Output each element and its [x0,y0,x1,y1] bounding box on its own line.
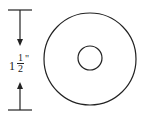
dimension-whole: 1 [9,59,15,74]
outer-circle [44,13,136,105]
dimension-label: 1 1 2 " [8,53,32,79]
inner-circle [78,46,102,70]
down-arrowhead-icon [17,39,23,46]
dimension-fraction: 1 2 [17,53,24,74]
inch-mark: " [25,53,29,64]
up-arrowhead-icon [17,82,23,89]
fraction-denominator: 2 [17,64,24,74]
